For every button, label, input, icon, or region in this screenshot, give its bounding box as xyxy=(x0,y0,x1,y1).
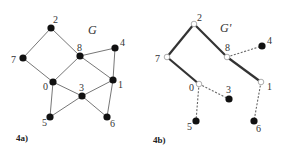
panel-label: 4a) xyxy=(16,133,28,143)
node-label-4: 4 xyxy=(120,37,125,48)
node-label-8: 8 xyxy=(225,42,230,53)
edge-8-4 xyxy=(80,48,115,56)
edge-2-7 xyxy=(167,24,194,57)
edge-8-1 xyxy=(80,56,113,80)
node-label-6: 6 xyxy=(256,123,261,134)
node-label-8: 8 xyxy=(77,42,82,53)
node-label-3: 3 xyxy=(226,84,231,95)
edge-7-0 xyxy=(23,58,53,82)
edge-3-1 xyxy=(82,80,113,96)
edge-0-3 xyxy=(53,82,82,96)
node-label-2: 2 xyxy=(197,12,202,23)
node-label-5: 5 xyxy=(187,121,192,132)
graph-title: G' xyxy=(220,21,232,35)
node-3 xyxy=(225,95,232,102)
node-5 xyxy=(192,117,199,124)
node-1 xyxy=(109,76,116,83)
node-label-7: 7 xyxy=(11,54,16,65)
node-2 xyxy=(47,24,54,31)
node-3 xyxy=(78,92,85,99)
edge-1-6 xyxy=(107,80,113,117)
edge-8-0 xyxy=(53,56,80,82)
node-label-4: 4 xyxy=(267,35,272,46)
node-label-1: 1 xyxy=(267,81,272,92)
node-7 xyxy=(19,54,26,61)
edge-8-1 xyxy=(227,57,261,82)
node-7 xyxy=(164,54,170,60)
node-label-7: 7 xyxy=(155,53,160,64)
node-4 xyxy=(111,44,118,51)
node-4 xyxy=(258,42,265,49)
edge-0-5 xyxy=(196,84,199,121)
edge-7-0 xyxy=(167,57,199,84)
panel-4a-graph-G: 012345678G4a) xyxy=(11,14,125,143)
node-5 xyxy=(46,113,53,120)
node-8 xyxy=(76,52,83,59)
node-8 xyxy=(224,54,230,60)
graph-figure: 012345678G4a) 012345678G'4b) xyxy=(0,0,287,152)
edge-1-6 xyxy=(254,82,261,121)
node-label-3: 3 xyxy=(79,82,84,93)
edge-8-4 xyxy=(227,46,262,57)
node-label-2: 2 xyxy=(53,14,58,25)
node-label-0: 0 xyxy=(43,81,48,92)
edge-0-3 xyxy=(199,84,229,99)
node-label-5: 5 xyxy=(42,117,47,128)
edge-2-8 xyxy=(51,28,80,56)
panel-label: 4b) xyxy=(153,135,166,145)
edge-3-5 xyxy=(50,96,82,117)
panel-4b-graph-G-prime: 012345678G'4b) xyxy=(153,12,272,145)
node-label-6: 6 xyxy=(110,118,115,129)
edge-2-7 xyxy=(23,28,51,58)
node-label-1: 1 xyxy=(118,79,123,90)
edge-0-5 xyxy=(50,82,53,117)
node-0 xyxy=(196,81,202,87)
node-2 xyxy=(191,21,197,27)
edge-3-6 xyxy=(82,96,107,117)
node-0 xyxy=(49,78,56,85)
edge-4-1 xyxy=(113,48,115,80)
node-label-0: 0 xyxy=(189,82,194,93)
node-1 xyxy=(258,79,264,85)
graph-title: G xyxy=(88,23,97,37)
